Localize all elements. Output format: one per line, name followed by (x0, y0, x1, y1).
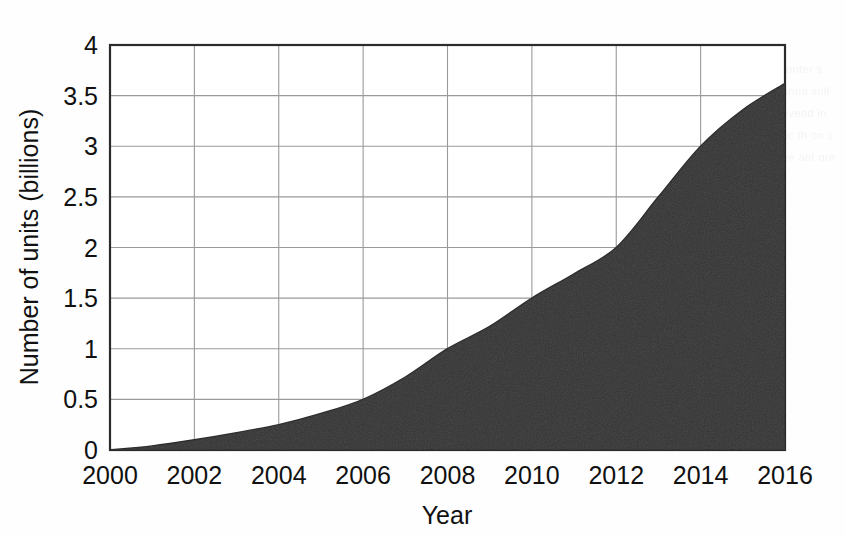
x-tick-2016: 2016 (757, 461, 813, 489)
x-tick-2010: 2010 (504, 461, 560, 489)
x-tick-2000: 2000 (82, 461, 138, 489)
y-tick-3-5: 3.5 (63, 82, 98, 110)
y-tick-1-5: 1.5 (63, 284, 98, 312)
y-tick-1: 1 (84, 335, 98, 363)
x-axis-tick-labels: 200020022004200620082010201220142016 (82, 461, 813, 489)
x-tick-2014: 2014 (673, 461, 729, 489)
x-tick-2004: 2004 (251, 461, 307, 489)
y-tick-4: 4 (84, 31, 98, 59)
y-tick-0-5: 0.5 (63, 385, 98, 413)
y-tick-3: 3 (84, 132, 98, 160)
x-tick-2008: 2008 (420, 461, 476, 489)
x-tick-2002: 2002 (167, 461, 223, 489)
x-axis-title: Year (422, 501, 473, 529)
y-axis-tick-labels: 00.511.522.533.54 (63, 31, 98, 464)
y-tick-2: 2 (84, 234, 98, 262)
chart-figure: ronter s anna sull evend in tic th on s … (0, 0, 846, 536)
x-tick-2006: 2006 (335, 461, 391, 489)
x-tick-2012: 2012 (588, 461, 644, 489)
y-axis-title: Number of units (billions) (15, 109, 43, 386)
y-tick-2-5: 2.5 (63, 183, 98, 211)
area-chart: 00.511.522.533.54 2000200220042006200820… (0, 0, 846, 536)
y-tick-0: 0 (84, 436, 98, 464)
